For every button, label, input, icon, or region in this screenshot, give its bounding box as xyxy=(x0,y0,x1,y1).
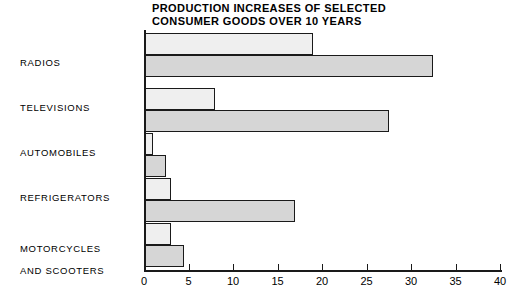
bar xyxy=(144,110,389,132)
x-axis-tick-label: 40 xyxy=(485,275,515,287)
bar xyxy=(144,155,166,177)
x-axis-tick-label: 20 xyxy=(307,275,337,287)
chart-title-line-2: CONSUMER GOODS OVER 10 YEARS xyxy=(152,15,482,28)
bar xyxy=(144,245,184,267)
x-axis-tick-label: 25 xyxy=(352,275,382,287)
x-axis-tick-label: 15 xyxy=(263,275,293,287)
chart-title: PRODUCTION INCREASES OF SELECTED CONSUME… xyxy=(152,2,482,27)
x-axis-tick xyxy=(367,264,368,271)
chart-title-line-1: PRODUCTION INCREASES OF SELECTED xyxy=(152,2,482,15)
category-label-refrigerators: REFRIGERATORS xyxy=(20,192,110,203)
bar xyxy=(144,55,433,77)
category-label-televisions: TELEVISIONS xyxy=(20,102,90,113)
x-axis-tick xyxy=(189,264,190,271)
category-label-text-line-1: MOTORCYCLES xyxy=(20,243,101,254)
category-label-motorcycles-and-scooters: MOTORCYCLES AND SCOOTERS xyxy=(20,232,104,276)
category-label-text: REFRIGERATORS xyxy=(20,192,110,203)
x-axis-tick-label: 10 xyxy=(218,275,248,287)
bar xyxy=(144,178,171,200)
x-axis-tick xyxy=(144,264,145,271)
category-label-text: AUTOMOBILES xyxy=(20,147,96,158)
bar xyxy=(144,223,171,245)
category-label-automobiles: AUTOMOBILES xyxy=(20,147,96,158)
bar xyxy=(144,88,215,110)
bar xyxy=(144,200,295,222)
category-label-text: TELEVISIONS xyxy=(20,102,90,113)
x-axis-tick-label: 5 xyxy=(174,275,204,287)
x-axis-tick-label: 35 xyxy=(441,275,471,287)
bar xyxy=(144,33,313,55)
x-axis-line xyxy=(144,270,502,272)
x-axis-tick xyxy=(456,264,457,271)
x-axis-tick xyxy=(411,264,412,271)
category-label-radios: RADIOS xyxy=(20,57,61,68)
category-label-text: RADIOS xyxy=(20,57,61,68)
bar-chart: PRODUCTION INCREASES OF SELECTED CONSUME… xyxy=(0,0,528,294)
x-axis-tick xyxy=(278,264,279,271)
x-axis-tick-label: 0 xyxy=(129,275,159,287)
x-axis-tick xyxy=(233,264,234,271)
x-axis-tick xyxy=(322,264,323,271)
x-axis-tick xyxy=(500,264,501,271)
category-label-text-line-2: AND SCOOTERS xyxy=(20,265,104,276)
y-axis-line xyxy=(144,30,146,272)
x-axis-tick-label: 30 xyxy=(396,275,426,287)
